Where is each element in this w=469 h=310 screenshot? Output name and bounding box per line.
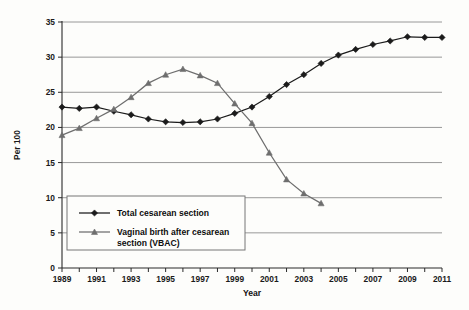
series-line-vbac: [62, 69, 321, 203]
datapoint-vbac-2001: [266, 150, 272, 155]
x-tick-label-2005: 2005: [329, 274, 348, 284]
datapoint-vbac-1996: [180, 66, 186, 71]
datapoint-vbac-2004: [318, 200, 324, 205]
x-tick-label-1999: 1999: [225, 274, 244, 284]
x-tick-label-1993: 1993: [122, 274, 141, 284]
y-tick-label-5: 5: [50, 228, 55, 238]
y-tick-label-20: 20: [46, 122, 56, 132]
x-tick-label-2001: 2001: [260, 274, 279, 284]
y-tick-label-0: 0: [50, 263, 55, 273]
datapoint-cesarean-2007: [370, 41, 376, 47]
y-tick-label-25: 25: [46, 87, 56, 97]
y-tick-label-30: 30: [46, 52, 56, 62]
x-tick-label-1995: 1995: [156, 274, 175, 284]
x-axis-title: Year: [243, 288, 262, 298]
datapoint-cesarean-2003: [301, 72, 307, 78]
x-tick-label-1989: 1989: [53, 274, 72, 284]
datapoint-cesarean-1989: [59, 104, 65, 110]
y-tick-label-15: 15: [46, 158, 56, 168]
datapoint-cesarean-2009: [404, 34, 410, 40]
y-axis-title: Per 100: [12, 130, 22, 160]
legend-label-vbac-line2: section (VBAC): [117, 238, 180, 248]
datapoint-cesarean-1996: [180, 119, 186, 125]
datapoint-vbac-1991: [94, 115, 100, 120]
datapoint-cesarean-2006: [353, 46, 359, 52]
x-tick-label-2009: 2009: [398, 274, 417, 284]
datapoint-cesarean-2011: [439, 34, 445, 40]
datapoint-cesarean-1999: [232, 110, 238, 116]
legend-label-cesarean: Total cesarean section: [117, 208, 209, 218]
x-tick-label-2003: 2003: [294, 274, 313, 284]
datapoint-cesarean-2010: [422, 34, 428, 40]
datapoint-cesarean-1993: [128, 112, 134, 118]
series-vbac: [59, 66, 324, 206]
datapoint-cesarean-1997: [197, 119, 203, 125]
legend-label-vbac: Vaginal birth after cesarean: [117, 227, 229, 237]
chart-container: 0510152025303519891991199319951997199920…: [0, 0, 469, 310]
datapoint-cesarean-2004: [318, 60, 324, 66]
x-tick-label-2011: 2011: [433, 274, 452, 284]
datapoint-cesarean-1998: [214, 116, 220, 122]
datapoint-cesarean-2008: [387, 38, 393, 44]
y-tick-label-10: 10: [46, 193, 56, 203]
x-tick-label-1997: 1997: [191, 274, 210, 284]
x-tick-label-1991: 1991: [87, 274, 106, 284]
datapoint-cesarean-1995: [163, 119, 169, 125]
datapoint-vbac-1994: [145, 80, 151, 85]
datapoint-cesarean-1990: [76, 105, 82, 111]
datapoint-cesarean-1994: [145, 116, 151, 122]
x-tick-label-2007: 2007: [364, 274, 383, 284]
line-chart: 0510152025303519891991199319951997199920…: [0, 0, 469, 310]
datapoint-cesarean-2000: [249, 104, 255, 110]
y-tick-label-35: 35: [46, 17, 56, 27]
datapoint-cesarean-1991: [93, 104, 99, 110]
legend: Total cesarean sectionVaginal birth afte…: [67, 196, 245, 250]
